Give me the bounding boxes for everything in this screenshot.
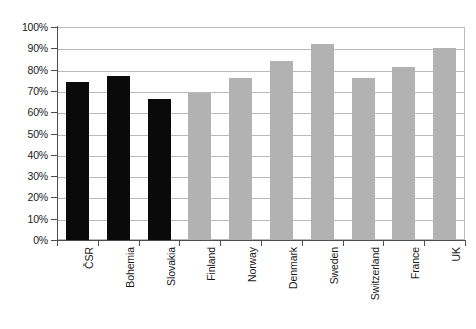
x-axis-label-sweden: Sweden [328,247,340,327]
y-axis-tick [51,70,57,71]
y-axis-tick-label: 100% [0,22,48,33]
bar-france [392,67,415,240]
y-axis-tick-label: 0% [0,235,48,246]
bar-bohemia [107,76,130,240]
x-axis-label-norway: Norway [246,247,258,327]
x-axis-tick [139,241,140,246]
y-axis-tick [51,134,57,135]
y-axis-tick-label: 10% [0,213,48,224]
bars-layer [57,27,465,240]
y-axis-tick [51,197,57,198]
x-axis-tick [220,241,221,246]
y-axis-tick-label: 50% [0,128,48,139]
x-axis-tick [261,241,262,246]
bar-uk [433,48,456,240]
x-axis-label-switzerland: Switzerland [369,247,381,327]
x-axis-label-csr: ČSR [83,247,95,327]
y-axis-tick-label: 20% [0,192,48,203]
x-axis-tick [424,241,425,246]
y-axis-labels: 100% 90% 80% 70% 60% 50% 40% 30% 20% 10%… [0,20,48,246]
y-axis-tick [51,219,57,220]
x-axis-tick [179,241,180,246]
bar-denmark [270,61,293,240]
y-axis-tick-label: 40% [0,149,48,160]
x-axis-tick [343,241,344,246]
bar-csr [66,82,89,240]
x-axis-tick [465,241,466,246]
x-axis-label-uk: UK [450,247,462,327]
y-axis-tick [51,48,57,49]
y-axis-tick [51,155,57,156]
y-axis-tick-label: 30% [0,171,48,182]
y-axis-tick [51,91,57,92]
y-axis-tick-label: 70% [0,85,48,96]
y-axis-line [57,26,58,241]
x-axis-label-france: France [409,247,421,327]
y-axis-tick [51,27,57,28]
x-axis-tick [98,241,99,246]
x-axis-labels: ČSR Bohemia Slovakia Finland Norway Denm… [57,247,465,329]
bar-slovakia [148,99,171,240]
y-axis-tick-label: 60% [0,107,48,118]
x-axis-label-bohemia: Bohemia [124,247,136,327]
x-axis-tick [383,241,384,246]
x-axis-tick [57,241,58,246]
x-axis-label-slovakia: Slovakia [165,247,177,327]
bar-switzerland [352,78,375,240]
bar-chart: 100% 90% 80% 70% 60% 50% 40% 30% 20% 10%… [0,0,476,329]
y-axis-tick [51,176,57,177]
bar-finland [188,93,211,240]
x-axis-tick [302,241,303,246]
bar-norway [229,78,252,240]
bar-sweden [311,44,334,240]
y-axis-tick [51,112,57,113]
x-axis-label-finland: Finland [205,247,217,327]
x-axis-label-denmark: Denmark [287,247,299,327]
y-axis-tick-label: 80% [0,64,48,75]
y-axis-tick-label: 90% [0,43,48,54]
